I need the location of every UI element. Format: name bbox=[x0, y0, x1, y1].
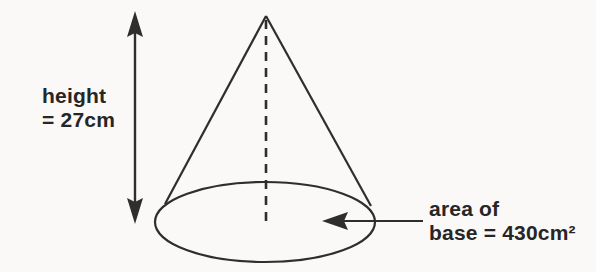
height-label-line2: = 27cm bbox=[42, 108, 115, 132]
base-area-label-line1: area of bbox=[429, 197, 576, 221]
height-dimension-arrow bbox=[127, 11, 143, 224]
cone-diagram: height = 27cm area of base = 430cm² bbox=[0, 0, 596, 272]
cone-left-slant-line bbox=[165, 16, 266, 204]
base-area-label: area of base = 430cm² bbox=[429, 197, 576, 245]
base-area-label-line2: base = 430cm² bbox=[429, 221, 576, 245]
cone-right-slant-line bbox=[266, 16, 371, 206]
height-label: height = 27cm bbox=[42, 84, 115, 132]
height-label-line1: height bbox=[42, 84, 115, 108]
